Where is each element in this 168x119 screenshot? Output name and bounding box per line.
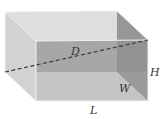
box-diagram: D H W L bbox=[0, 0, 168, 119]
label-length: L bbox=[89, 104, 97, 117]
label-width: W bbox=[119, 82, 132, 95]
label-diagonal: D bbox=[70, 45, 80, 58]
label-height: H bbox=[149, 66, 160, 79]
